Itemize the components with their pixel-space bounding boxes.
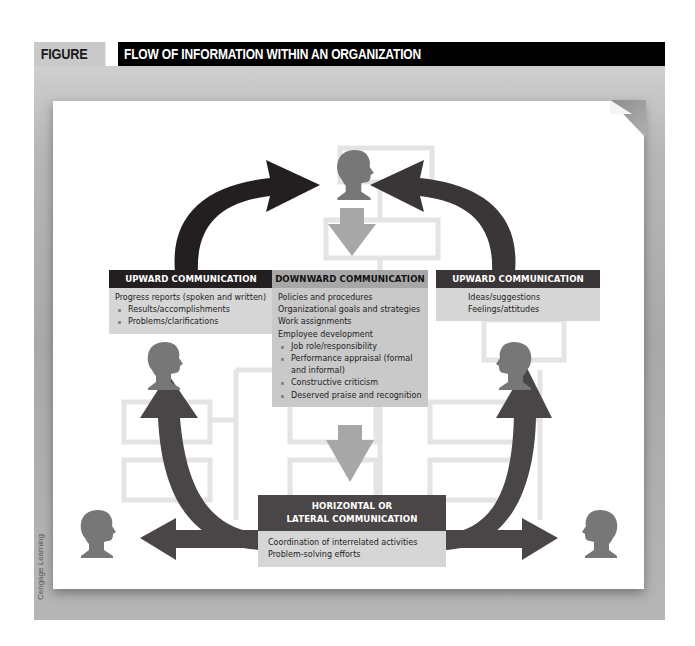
box-bullet: Problems/clarifications — [115, 316, 267, 328]
upward-communication-left-box: UPWARD COMMUNICATION Progress reports (s… — [109, 270, 273, 334]
box-heading: DOWNWARD COMMUNICATION — [272, 270, 428, 288]
box-line: Feelings/attitudes — [468, 304, 594, 316]
box-line: Organizational goals and strategies — [278, 304, 422, 316]
box-heading: UPWARD COMMUNICATION — [109, 270, 273, 288]
box-line: Progress reports (spoken and written) — [115, 292, 267, 304]
box-line: Policies and procedures — [278, 292, 422, 304]
upward-arrow-right — [370, 160, 515, 272]
person-icon-left-mid — [148, 342, 183, 390]
upward-communication-right-box: UPWARD COMMUNICATION Ideas/suggestions F… — [436, 270, 600, 321]
person-icon-left-bottom — [81, 510, 116, 558]
box-heading: HORIZONTAL OR LATERAL COMMUNICATION — [258, 495, 446, 531]
box-body: Ideas/suggestions Feelings/attitudes — [436, 288, 600, 321]
box-line: Employee development — [278, 329, 422, 341]
upward-arrow-left — [175, 160, 320, 272]
box-body: Policies and procedures Organizational g… — [272, 288, 428, 407]
box-body: Progress reports (spoken and written) Re… — [109, 288, 273, 334]
box-heading-line2: LATERAL COMMUNICATION — [258, 513, 446, 526]
box-body: Coordination of interrelated activities … — [258, 531, 446, 567]
box-bullet: Performance appraisal (formal and inform… — [278, 353, 422, 377]
box-line: Ideas/suggestions — [468, 292, 594, 304]
box-bullet: Constructive criticism — [278, 377, 422, 389]
box-bullet: Results/accomplishments — [115, 304, 267, 316]
downward-communication-box: DOWNWARD COMMUNICATION Policies and proc… — [272, 270, 428, 407]
box-line: Problem-solving efforts — [268, 549, 440, 561]
person-icon-top — [337, 150, 374, 200]
box-bullet: Deserved praise and recognition — [278, 390, 422, 402]
box-line: Work assignments — [278, 316, 422, 328]
box-heading: UPWARD COMMUNICATION — [436, 270, 600, 288]
box-heading-line1: HORIZONTAL OR — [258, 500, 446, 513]
box-line: Coordination of interrelated activities — [268, 537, 440, 549]
person-icon-right-bottom — [582, 510, 617, 558]
horizontal-communication-box: HORIZONTAL OR LATERAL COMMUNICATION Coor… — [258, 495, 446, 567]
box-bullet: Job role/responsibility — [278, 341, 422, 353]
